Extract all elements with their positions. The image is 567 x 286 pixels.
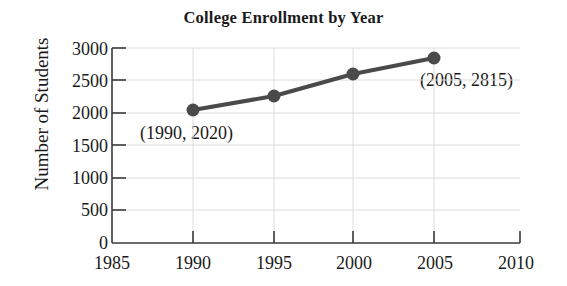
grid-lines-horizontal (112, 48, 520, 210)
y-axis-ticks (112, 48, 126, 210)
x-axis-ticks (193, 231, 520, 243)
data-point-1990 (187, 104, 200, 117)
data-line-series-enrollment (193, 58, 434, 110)
data-point-1995 (268, 90, 281, 103)
data-point-2000 (347, 68, 360, 81)
chart-figure: College Enrollment by Year Number of Stu… (0, 0, 567, 286)
plot-area (0, 0, 567, 286)
data-point-2005 (428, 52, 441, 65)
